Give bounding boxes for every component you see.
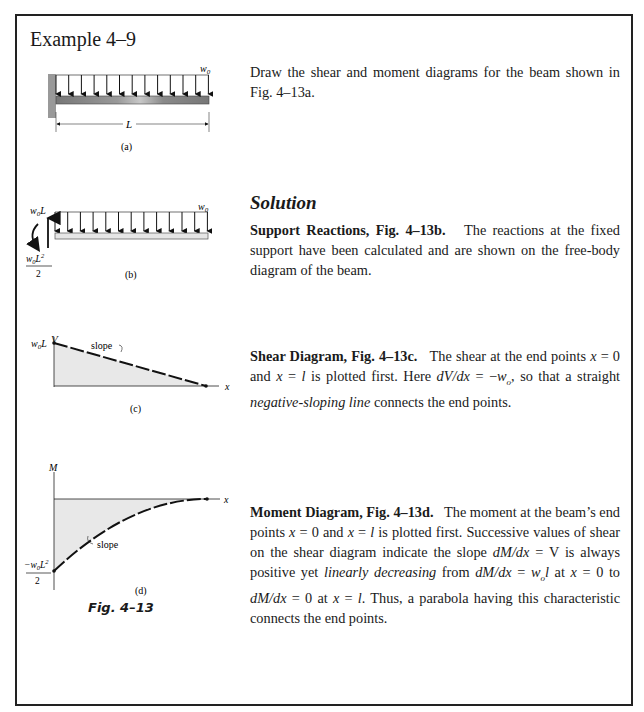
caption-a: (a) bbox=[121, 141, 132, 153]
shear-start-label: w0L bbox=[31, 338, 47, 351]
slope-label: slope bbox=[97, 539, 119, 550]
figure-caption: Fig. 4–13 bbox=[88, 600, 154, 615]
length-label: L bbox=[125, 118, 132, 130]
caption-c: (c) bbox=[130, 403, 141, 415]
svg-text:w0: w0 bbox=[200, 63, 211, 76]
reaction-force-label: w0L bbox=[30, 205, 46, 218]
section-heading: Moment Diagram, Fig. 4–13d. bbox=[250, 504, 434, 520]
svg-text:x: x bbox=[224, 381, 230, 392]
svg-text:2: 2 bbox=[35, 576, 40, 586]
figure-c-shear-diagram: V w0L slope x (c) bbox=[25, 335, 240, 445]
support-reactions-paragraph: Support Reactions, Fig. 4–13b. The react… bbox=[250, 220, 620, 280]
moment-diagram-paragraph: Moment Diagram, Fig. 4–13d. The moment a… bbox=[250, 502, 620, 628]
solution-heading: Solution bbox=[250, 192, 317, 214]
svg-text:2: 2 bbox=[36, 269, 41, 279]
m-axis-label: M bbox=[48, 462, 58, 473]
section-body: The moment at the beam’s end points x = … bbox=[250, 504, 620, 626]
figure-a-cantilever-beam: w0 L (a) bbox=[40, 60, 230, 155]
beam bbox=[56, 96, 209, 104]
caption-b: (b) bbox=[125, 269, 137, 281]
caption-d: (d) bbox=[135, 585, 147, 597]
problem-statement: Draw the shear and moment diagrams for t… bbox=[250, 62, 620, 102]
v-axis-label: V bbox=[51, 333, 58, 345]
example-title: Example 4–9 bbox=[30, 28, 136, 51]
reaction-moment-label: w0L2 bbox=[26, 252, 45, 265]
moment-start-label: −w0L2 bbox=[24, 558, 49, 571]
figure-b-free-body-diagram: w0 w0L w0L2 2 (b) bbox=[20, 200, 220, 310]
section-heading: Support Reactions, Fig. 4–13b. bbox=[250, 222, 446, 238]
svg-text:x: x bbox=[223, 494, 229, 505]
shear-diagram-paragraph: Shear Diagram, Fig. 4–13c. The shear at … bbox=[250, 346, 620, 412]
figure-d-moment-diagram: M x slope −w0L2 2 (d) bbox=[20, 460, 240, 600]
section-heading: Shear Diagram, Fig. 4–13c. bbox=[250, 348, 417, 364]
slope-label: slope bbox=[91, 340, 113, 351]
fixed-support bbox=[48, 74, 56, 118]
distributed-load-arrows bbox=[56, 75, 208, 94]
